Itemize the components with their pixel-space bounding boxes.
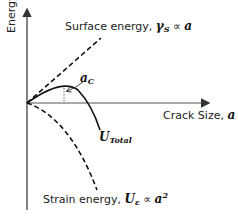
critical-size-label: aC — [80, 71, 95, 86]
total-energy-label: UTotal — [99, 130, 132, 145]
diagram-canvas: Energy aC Surface energy, γS ∝ a Crack S… — [0, 0, 238, 220]
surface-energy-label: Surface energy, γS ∝ a — [65, 19, 192, 34]
griffith-energy-diagram: Energy aC Surface energy, γS ∝ a Crack S… — [0, 0, 238, 220]
strain-energy-curve — [27, 103, 97, 190]
y-axis-label: Energy — [5, 0, 18, 33]
x-axis-label: Crack Size, a — [163, 108, 235, 122]
strain-energy-label: Strain energy, Uε ∝ a2 — [43, 190, 168, 207]
surface-energy-curve — [27, 38, 101, 103]
